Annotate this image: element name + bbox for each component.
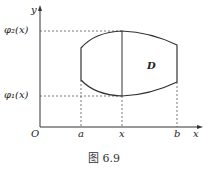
figure-caption: 图 6.9 [88, 149, 120, 165]
region-label: D [147, 61, 156, 71]
x-label: x [119, 129, 125, 139]
region-d-boundary [81, 31, 177, 96]
a-label: a [78, 129, 84, 139]
x-axis-label: x [193, 129, 199, 139]
b-label: b [174, 129, 180, 139]
phi2-label: φ₂(x) [4, 25, 28, 35]
y-axis-label: y [31, 5, 37, 15]
y-axis-arrow [38, 5, 42, 11]
phi1-label: φ₁(x) [4, 90, 28, 100]
origin-label: O [31, 129, 39, 139]
region-diagram [0, 0, 212, 171]
